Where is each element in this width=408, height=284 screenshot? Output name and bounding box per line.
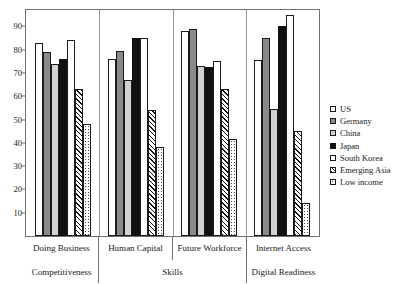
- bar-japan: [132, 38, 140, 236]
- bar-emerging-asia: [148, 110, 156, 236]
- x-axis-label: Internet Access: [247, 237, 320, 260]
- bar-emerging-asia: [221, 89, 229, 236]
- bar-japan: [205, 67, 213, 236]
- x-axis-group-label: Skills: [99, 260, 247, 283]
- bar-south-korea: [286, 15, 294, 236]
- bar-group: [99, 10, 172, 236]
- x-axis-label: Human Capital: [99, 237, 173, 260]
- x-axis-label: Doing Business: [25, 237, 99, 260]
- legend-item[interactable]: Germany: [330, 116, 408, 126]
- bar-us: [181, 31, 189, 236]
- y-axis-tick-mark: [21, 96, 25, 97]
- chart-title-cropped: · ·: [0, 0, 408, 4]
- legend-label: US: [340, 104, 351, 114]
- y-axis-tick-mark: [21, 49, 25, 50]
- legend-label: Germany: [340, 116, 372, 126]
- bar-low-income: [302, 203, 310, 236]
- y-axis-tick-mark: [21, 166, 25, 167]
- chart-legend: USGermanyChinaJapanSouth KoreaEmerging A…: [330, 104, 408, 187]
- y-axis-tick-mark: [21, 142, 25, 143]
- legend-swatch-icon: [330, 118, 336, 124]
- y-axis-tick-mark: [21, 212, 25, 213]
- legend-label: Low income: [340, 177, 383, 187]
- legend-swatch-icon: [330, 106, 336, 112]
- legend-swatch-icon: [330, 130, 336, 136]
- bar-group: [173, 10, 246, 236]
- bar-south-korea: [213, 61, 221, 236]
- bar-japan: [59, 59, 67, 236]
- legend-item[interactable]: China: [330, 128, 408, 138]
- bar-emerging-asia: [294, 131, 302, 236]
- x-axis-label: Future Workforce: [173, 237, 247, 260]
- legend-swatch-icon: [330, 155, 336, 161]
- bar-south-korea: [67, 40, 75, 236]
- bar-germany: [189, 29, 197, 236]
- legend-label: Japan: [340, 141, 359, 151]
- legend-label: South Korea: [340, 153, 383, 163]
- bar-south-korea: [140, 38, 148, 236]
- bar-chart: · · 102030405060708090 Doing BusinessHum…: [0, 0, 408, 284]
- legend-item[interactable]: South Korea: [330, 153, 408, 163]
- bar-china: [51, 64, 59, 236]
- bar-low-income: [229, 139, 237, 236]
- legend-swatch-icon: [330, 167, 336, 173]
- legend-item[interactable]: Emerging Asia: [330, 165, 408, 175]
- bar-groups: [26, 10, 319, 236]
- y-axis-tick-mark: [21, 119, 25, 120]
- bar-us: [35, 43, 43, 236]
- legend-label: China: [340, 128, 360, 138]
- legend-item[interactable]: Low income: [330, 177, 408, 187]
- bar-group: [26, 10, 99, 236]
- y-axis-tick-mark: [21, 189, 25, 190]
- x-axis-labels-row2: CompetitivenessSkillsDigital Readiness: [25, 260, 320, 283]
- legend-item[interactable]: Japan: [330, 141, 408, 151]
- bar-germany: [43, 52, 51, 236]
- bar-low-income: [83, 124, 91, 236]
- bar-china: [124, 80, 132, 236]
- bar-germany: [262, 38, 270, 236]
- legend-swatch-icon: [330, 143, 336, 149]
- bar-china: [270, 109, 278, 236]
- x-axis-labels-row1: Doing BusinessHuman CapitalFuture Workfo…: [25, 237, 320, 260]
- bar-japan: [278, 26, 286, 236]
- legend-label: Emerging Asia: [340, 165, 391, 175]
- y-axis-tick-mark: [21, 72, 25, 73]
- bar-germany: [116, 51, 124, 236]
- legend-swatch-icon: [330, 179, 336, 185]
- bar-china: [197, 66, 205, 236]
- bar-low-income: [156, 147, 164, 236]
- bar-us: [108, 59, 116, 236]
- y-axis-tick-mark: [21, 26, 25, 27]
- x-axis-group-label: Digital Readiness: [247, 260, 320, 283]
- bar-group: [246, 10, 319, 236]
- bar-emerging-asia: [75, 89, 83, 236]
- legend-item[interactable]: US: [330, 104, 408, 114]
- x-axis-group-label: Competitiveness: [25, 260, 99, 283]
- bar-us: [254, 60, 262, 236]
